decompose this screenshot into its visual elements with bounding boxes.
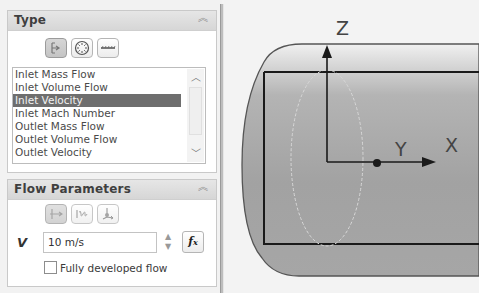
list-item-selected[interactable]: Inlet Velocity — [13, 94, 181, 107]
scroll-up-icon[interactable]: ︿ — [188, 70, 203, 85]
wall-button[interactable] — [97, 38, 119, 58]
property-manager: Type ︽ Inlet Mass Flow Inlet Volume Flow… — [0, 0, 222, 293]
list-scrollbar[interactable]: ︿ ﹀ — [187, 69, 204, 162]
3d-vector-icon — [100, 206, 116, 222]
fully-developed-row[interactable]: Fully developed flow — [44, 261, 167, 274]
wall-icon — [100, 44, 116, 52]
axis-y-label: Y — [395, 138, 407, 160]
flow-parameters-header[interactable]: Flow Parameters ︽ — [8, 180, 216, 200]
list-item[interactable]: Inlet Volume Flow — [13, 81, 205, 94]
collapse-icon[interactable]: ︽ — [198, 14, 208, 21]
fx-icon: fx — [188, 235, 198, 248]
swirl-icon — [74, 207, 90, 221]
pressure-openings-icon — [74, 40, 90, 56]
type-panel-title: Type — [14, 13, 46, 27]
fully-developed-label: Fully developed flow — [60, 262, 167, 274]
pressure-openings-button[interactable] — [71, 38, 93, 58]
flow-parameters-title: Flow Parameters — [14, 182, 131, 196]
list-item[interactable]: Outlet Volume Flow — [13, 133, 205, 146]
direction-buttons — [45, 204, 119, 224]
list-item[interactable]: Outlet Mass Flow — [13, 120, 205, 133]
list-item[interactable]: Inlet Mass Flow — [13, 68, 205, 81]
swirl-button[interactable] — [71, 204, 93, 224]
flow-openings-button[interactable] — [45, 38, 67, 58]
3d-vector-button[interactable] — [97, 204, 119, 224]
normal-to-face-icon — [48, 207, 64, 221]
spin-up-icon[interactable]: ▲ — [162, 232, 174, 242]
graphics-viewport[interactable]: Z Y X — [224, 0, 479, 293]
fully-developed-checkbox[interactable] — [44, 261, 57, 274]
velocity-spinner[interactable]: ▲ ▼ — [162, 232, 174, 254]
normal-to-face-button[interactable] — [45, 204, 67, 224]
scroll-thumb[interactable] — [189, 87, 202, 135]
list-item[interactable]: Outlet Velocity — [13, 146, 205, 159]
list-item[interactable]: Inlet Mach Number — [13, 107, 205, 120]
boundary-type-list[interactable]: Inlet Mass Flow Inlet Volume Flow Inlet … — [12, 67, 206, 164]
axis-x-label: X — [445, 134, 458, 156]
axis-z-label: Z — [336, 17, 349, 39]
flow-openings-icon — [49, 41, 63, 55]
pipe-model — [224, 0, 479, 293]
spin-down-icon[interactable]: ▼ — [162, 242, 174, 252]
scroll-down-icon[interactable]: ﹀ — [188, 146, 203, 161]
collapse-icon[interactable]: ︽ — [198, 183, 208, 190]
type-buttons — [45, 38, 119, 58]
type-panel-header[interactable]: Type ︽ — [8, 11, 216, 31]
dependency-fx-button[interactable]: fx — [182, 231, 204, 253]
velocity-input[interactable]: 10 m/s — [43, 232, 157, 253]
flow-boundary-editor: Type ︽ Inlet Mass Flow Inlet Volume Flow… — [0, 0, 479, 293]
velocity-symbol: V — [17, 235, 27, 250]
